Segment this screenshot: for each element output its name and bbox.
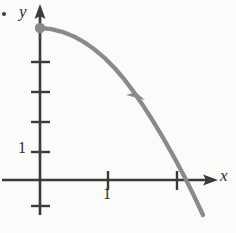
initial-point-dot	[35, 23, 45, 33]
graph-canvas	[0, 0, 236, 233]
x-tick-label-1: 1	[103, 186, 111, 202]
x-axis-label: x	[220, 167, 228, 184]
solution-curve	[40, 28, 203, 215]
y-tick-label-1: 1	[18, 140, 26, 156]
graph-figure: y x 1 1	[0, 0, 236, 233]
y-axis-label: y	[19, 3, 27, 20]
